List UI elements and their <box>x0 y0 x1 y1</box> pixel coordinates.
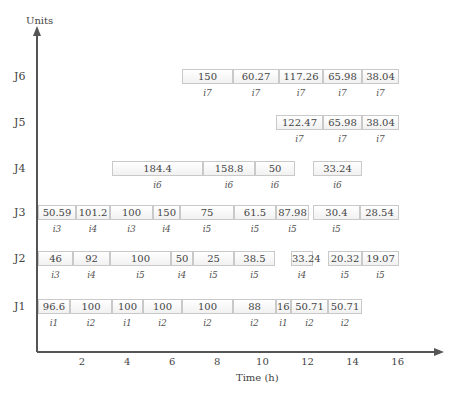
gantt-segment: 50.71i2 <box>328 299 362 314</box>
gantt-segment: 50.59i3 <box>38 205 76 220</box>
gantt-segment: 50i6 <box>255 161 295 176</box>
gantt-segment: 38.04i7 <box>362 69 399 84</box>
gantt-segment: 122.47i7 <box>276 115 323 130</box>
segment-value: 65.98 <box>328 117 357 128</box>
gantt-segment: 100i5 <box>110 251 171 266</box>
segment-value: 50 <box>269 163 282 174</box>
row-label-j3: J3 <box>14 206 25 219</box>
segment-value: 150 <box>198 71 217 82</box>
segment-task-label: i3 <box>111 223 152 236</box>
segment-task-label: i2 <box>292 317 327 330</box>
segment-value: 60.27 <box>242 71 271 82</box>
segment-value: 65.98 <box>328 71 357 82</box>
segment-task-label: i6 <box>204 179 254 192</box>
segment-value: 50.71 <box>331 301 360 312</box>
y-axis-arrow-icon <box>33 26 41 36</box>
x-tick-label: 4 <box>124 356 130 367</box>
gantt-chart: Units Time (h) 246810121416 J6150i760.27… <box>0 0 465 403</box>
row-label-j1: J1 <box>14 300 25 313</box>
segment-value: 20.32 <box>331 253 360 264</box>
segment-task-label: i7 <box>183 87 232 100</box>
gantt-segment: 100i2 <box>182 299 233 314</box>
segment-task-label: i7 <box>280 87 322 100</box>
segment-task-label: i5 <box>111 269 170 282</box>
gantt-segment: 92i4 <box>73 251 110 266</box>
segment-task-label: i5 <box>363 269 398 282</box>
segment-value: 122.47 <box>282 117 317 128</box>
gantt-segment: 19.07i5 <box>362 251 399 266</box>
segment-value: 38.04 <box>366 117 395 128</box>
gantt-segment: 158.8i6 <box>203 161 255 176</box>
x-tick-label: 16 <box>391 356 404 367</box>
row-label-j4: J4 <box>14 162 25 175</box>
segment-value: 33.24 <box>292 253 321 264</box>
segment-value: 50 <box>176 253 189 264</box>
segment-value: 61.5 <box>244 207 266 218</box>
row-label-j5: J5 <box>14 116 25 129</box>
segment-value: 38.04 <box>366 71 395 82</box>
gantt-segment: 150i4 <box>153 205 180 220</box>
gantt-segment: 50i4 <box>171 251 193 266</box>
segment-task-label: i5 <box>277 223 308 236</box>
segment-value: 88 <box>248 301 261 312</box>
segment-value: 100 <box>122 207 141 218</box>
segment-task-label: i5 <box>194 269 233 282</box>
x-axis-arrow-icon <box>434 348 444 356</box>
gantt-segment: 30.4i5 <box>313 205 360 220</box>
segment-task-label: i4 <box>154 223 179 236</box>
segment-value: 117.26 <box>284 71 319 82</box>
segment-value: 150 <box>157 207 176 218</box>
axes <box>0 0 465 403</box>
gantt-segment: 75i5 <box>180 205 234 220</box>
gantt-segment: 150i7 <box>182 69 233 84</box>
x-axis-title: Time (h) <box>236 372 279 383</box>
segment-task-label: i6 <box>256 179 294 192</box>
gantt-segment: 20.32i5 <box>328 251 362 266</box>
segment-value: 100 <box>198 301 217 312</box>
segment-value: 100 <box>153 301 172 312</box>
gantt-segment: 50.71i2 <box>291 299 328 314</box>
gantt-segment: 38.5i5 <box>234 251 275 266</box>
segment-task-label: i5 <box>314 223 359 236</box>
x-tick-label: 6 <box>169 356 175 367</box>
segment-value: 75 <box>201 207 214 218</box>
segment-value: 30.4 <box>325 207 347 218</box>
segment-task-label: i1 <box>39 317 69 330</box>
segment-value: 100 <box>118 301 137 312</box>
x-tick-label: 10 <box>256 356 269 367</box>
row-label-j6: J6 <box>14 70 25 83</box>
x-tick-label: 8 <box>214 356 220 367</box>
gantt-segment: 25i5 <box>193 251 234 266</box>
gantt-segment: 33.24i4 <box>291 251 313 266</box>
segment-task-label: i5 <box>181 223 233 236</box>
segment-task-label: i5 <box>235 223 275 236</box>
segment-task-label: i7 <box>234 87 278 100</box>
segment-task-label: i1 <box>113 317 142 330</box>
gantt-segment: 38.04i7 <box>362 115 399 130</box>
segment-value: 50.59 <box>43 207 72 218</box>
gantt-segment: 100i3 <box>110 205 153 220</box>
segment-task-label: i2 <box>183 317 232 330</box>
segment-task-label: i7 <box>324 133 361 146</box>
gantt-segment: 184.4i6 <box>112 161 203 176</box>
gantt-segment: 65.98i7 <box>323 115 362 130</box>
segment-value: 38.5 <box>243 253 265 264</box>
segment-task-label: i2 <box>234 317 275 330</box>
segment-value: 96.6 <box>43 301 65 312</box>
segment-task-label: i5 <box>235 269 274 282</box>
segment-task-label: i4 <box>292 269 312 282</box>
segment-task-label: i2 <box>329 317 361 330</box>
segment-task-label: i3 <box>39 269 72 282</box>
gantt-segment: 16.6i1 <box>276 299 291 314</box>
gantt-segment: 88i2 <box>233 299 276 314</box>
y-axis-title: Units <box>26 15 53 26</box>
segment-task-label: i4 <box>77 223 109 236</box>
gantt-segment: 33.24i6 <box>313 161 362 176</box>
segment-task-label: i2 <box>144 317 181 330</box>
segment-value: 100 <box>131 253 150 264</box>
segment-task-label: i1 <box>277 317 290 330</box>
segment-value: 33.24 <box>323 163 352 174</box>
gantt-segment: 61.5i5 <box>234 205 276 220</box>
gantt-segment: 100i1 <box>112 299 143 314</box>
segment-task-label: i7 <box>324 87 361 100</box>
